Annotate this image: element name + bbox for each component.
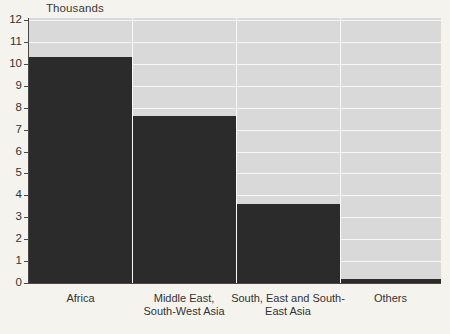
- x-axis-category-label: South, East and South- East Asia: [228, 292, 348, 317]
- y-axis-tick-mark: [24, 20, 29, 21]
- gridline: [29, 20, 441, 21]
- y-axis-tick-mark: [24, 283, 29, 284]
- y-axis-tick-label: 2: [2, 233, 22, 245]
- bar-separator: [340, 18, 341, 283]
- bar: [132, 116, 236, 283]
- bar: [236, 204, 340, 283]
- y-axis-tick-label: 9: [2, 80, 22, 92]
- y-axis-tick-label: 4: [2, 189, 22, 201]
- y-axis-tick-label: 0: [2, 277, 22, 289]
- y-axis-tick-label: 3: [2, 211, 22, 223]
- x-axis-category-label: Africa: [21, 292, 140, 305]
- y-axis-tick-label: 1: [2, 255, 22, 267]
- bar-separator: [236, 18, 237, 283]
- x-axis-line: [28, 283, 441, 284]
- gridline: [29, 42, 441, 43]
- y-axis-tick-label: 5: [2, 167, 22, 179]
- x-axis-category-label: Others: [332, 292, 449, 305]
- y-axis-tick-mark: [24, 42, 29, 43]
- y-axis-unit-caption: Thousands: [46, 2, 104, 14]
- y-axis-tick-label: 8: [2, 102, 22, 114]
- y-axis-tick-label: 7: [2, 124, 22, 136]
- y-axis-tick-label: 6: [2, 146, 22, 158]
- bar: [340, 279, 441, 283]
- y-axis-tick-label: 10: [2, 58, 22, 70]
- bar-separator: [132, 18, 133, 283]
- plot-area: [29, 18, 441, 283]
- bar: [29, 57, 132, 283]
- y-axis-tick-label: 12: [2, 14, 22, 26]
- x-axis-category-label: Middle East, South-West Asia: [124, 292, 244, 317]
- bar-chart: Thousands 0123456789101112 AfricaMiddle …: [0, 0, 450, 334]
- y-axis-tick-label: 11: [2, 36, 22, 48]
